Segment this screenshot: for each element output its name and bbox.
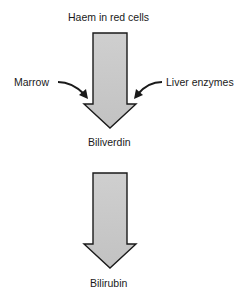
left-input-label: Marrow	[14, 77, 49, 88]
diagram-canvas	[0, 0, 248, 297]
right-input-label: Liver enzymes	[166, 77, 234, 88]
down-arrow-1	[84, 33, 136, 128]
top-label: Haem in red cells	[68, 12, 149, 23]
bottom-label: Bilirubin	[90, 278, 127, 289]
middle-label: Biliverdin	[88, 137, 131, 148]
liver-enzymes-curved-arrow	[134, 82, 162, 99]
marrow-curved-arrow	[58, 82, 88, 99]
down-arrow-2	[84, 173, 136, 268]
